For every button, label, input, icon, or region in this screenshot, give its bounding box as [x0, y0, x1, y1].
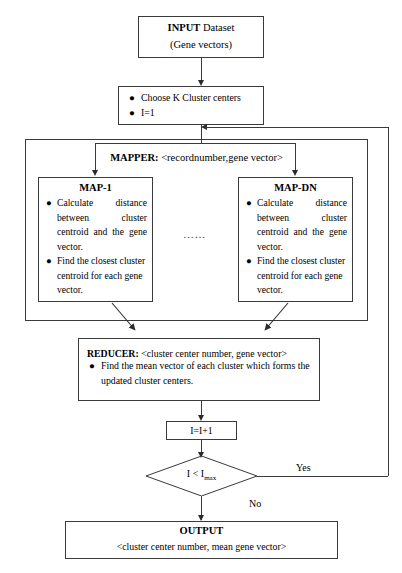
bullet-dot-icon: ●: [46, 254, 52, 269]
map-dn-body: ● Calculate distance between cluster cen…: [239, 196, 352, 298]
bullet-dot-icon: ●: [129, 106, 135, 121]
map-1-bullet-1-row: ● Calculate distance between cluster cen…: [44, 196, 147, 254]
edge-label-no: No: [249, 498, 261, 509]
maps-ellipsis: ……: [183, 228, 206, 240]
init-bullet-1: Choose K Cluster centers: [141, 92, 241, 103]
bullet-dot-icon: ●: [246, 196, 252, 211]
node-output: OUTPUT <cluster center number, mean gene…: [65, 521, 338, 559]
output-title: OUTPUT: [66, 525, 337, 536]
edge-yes-horizontal: [257, 476, 388, 477]
edges-maps-to-reducer: [0, 295, 402, 340]
edge-label-yes: Yes: [296, 462, 311, 473]
edge-yes-vertical: [388, 127, 389, 476]
node-map-dn: MAP-DN ● Calculate distance between clus…: [238, 177, 353, 302]
map-1-bullet-2-row: ● Find the closest cluster centroid for …: [44, 254, 147, 298]
mapper-label-bold: MAPPER:: [110, 152, 158, 163]
output-subtitle: <cluster center number, mean gene vector…: [66, 541, 337, 552]
map-1-title: MAP-1: [39, 181, 152, 195]
node-map-1: MAP-1 ● Calculate distance between clust…: [38, 177, 153, 302]
reducer-bullet-1: Find the mean vector of each cluster whi…: [101, 360, 310, 386]
bullet-dot-icon: ●: [246, 254, 252, 269]
map-1-bullet-2: Find the closest cluster centroid for ea…: [57, 255, 145, 295]
node-reducer: REDUCER: <cluster center number, gene ve…: [78, 338, 320, 401]
map-dn-bullet-1-row: ● Calculate distance between cluster cen…: [244, 196, 347, 254]
mapper-header-label: MAPPER: <recordnumber,gene vector>: [25, 147, 368, 165]
reducer-bullet-1-row: ● Find the mean vector of each cluster w…: [87, 359, 315, 388]
node-input-dataset: INPUT Dataset (Gene vectors): [138, 16, 264, 58]
map-dn-bullet-2-row: ● Find the closest cluster centroid for …: [244, 254, 347, 298]
edge-yes-return: [205, 127, 388, 128]
reducer-label-rest: <cluster center number, gene vector>: [139, 348, 287, 359]
bullet-dot-icon: ●: [129, 91, 135, 106]
decision-label: I < Imax: [146, 468, 257, 482]
decision-label-pre: I < I: [187, 468, 204, 479]
mapper-label-rest: <recordnumber,gene vector>: [159, 152, 283, 163]
reducer-label-bold: REDUCER:: [87, 348, 139, 359]
increment-label: I=I+1: [167, 425, 236, 436]
node-initialize: ● Choose K Cluster centers ● I=1: [118, 86, 264, 125]
map-dn-title: MAP-DN: [239, 181, 352, 195]
input-label-rest: Dataset: [200, 22, 234, 33]
map-dn-bullet-1: Calculate distance between cluster centr…: [257, 197, 347, 252]
init-bullet-2-row: ● I=1: [127, 106, 263, 121]
init-bullet-1-row: ● Choose K Cluster centers: [127, 91, 263, 106]
input-label-line2: (Gene vectors): [170, 39, 232, 50]
node-decision: I < Imax: [146, 456, 257, 496]
init-bullet-2: I=1: [141, 107, 155, 118]
map-1-bullet-1: Calculate distance between cluster centr…: [57, 197, 147, 252]
edge-input-to-init: [201, 58, 202, 82]
map-dn-bullet-2: Find the closest cluster centroid for ea…: [257, 255, 345, 295]
node-increment: I=I+1: [166, 421, 237, 440]
input-label-bold: INPUT: [168, 22, 201, 33]
bullet-dot-icon: ●: [89, 359, 95, 374]
bullet-dot-icon: ●: [46, 196, 52, 211]
map-1-body: ● Calculate distance between cluster cen…: [39, 196, 152, 298]
flowchart-canvas: INPUT Dataset (Gene vectors) ● Choose K …: [0, 0, 402, 573]
decision-label-sub: max: [204, 474, 216, 482]
